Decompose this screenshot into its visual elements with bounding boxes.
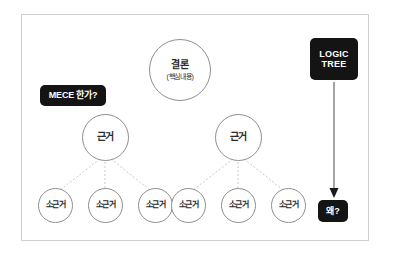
node-conclusion-label: 결론 xyxy=(171,60,188,71)
node-reason-left-label: 근거 xyxy=(97,132,114,143)
badge-why-label: 왜? xyxy=(326,206,339,216)
node-sub-reason-label: 소근거 xyxy=(279,201,299,209)
node-sub-reason: 소근거 xyxy=(138,188,173,223)
node-sub-reason-label: 소근거 xyxy=(46,201,66,209)
node-sub-reason: 소근거 xyxy=(171,188,206,223)
node-conclusion: 결론 (핵심내용) xyxy=(149,39,211,101)
node-reason-right-label: 근거 xyxy=(230,132,247,143)
node-sub-reason: 소근거 xyxy=(221,188,256,223)
node-sub-reason-label: 소근거 xyxy=(96,201,116,209)
badge-mece-question: MECE 한가? xyxy=(40,85,106,106)
node-sub-reason: 소근거 xyxy=(88,188,123,223)
badge-logic-tree-line2: TREE xyxy=(322,59,347,69)
node-reason-right: 근거 xyxy=(215,114,262,161)
badge-why: 왜? xyxy=(318,200,348,222)
node-sub-reason: 소근거 xyxy=(38,188,73,223)
node-conclusion-sublabel: (핵심내용) xyxy=(167,73,194,80)
badge-logic-tree-line1: LOGIC xyxy=(319,49,349,59)
node-sub-reason: 소근거 xyxy=(271,188,306,223)
node-reason-left: 근거 xyxy=(82,114,129,161)
diagram-canvas: 결론 (핵심내용) 근거 근거 소근거 소근거 소근거 소근거 소근거 소근거 … xyxy=(0,0,397,261)
badge-logic-tree: LOGIC TREE xyxy=(310,38,358,80)
badge-mece-label: MECE 한가? xyxy=(49,90,97,100)
node-sub-reason-label: 소근거 xyxy=(179,201,199,209)
node-sub-reason-label: 소근거 xyxy=(229,201,249,209)
node-sub-reason-label: 소근거 xyxy=(146,201,166,209)
